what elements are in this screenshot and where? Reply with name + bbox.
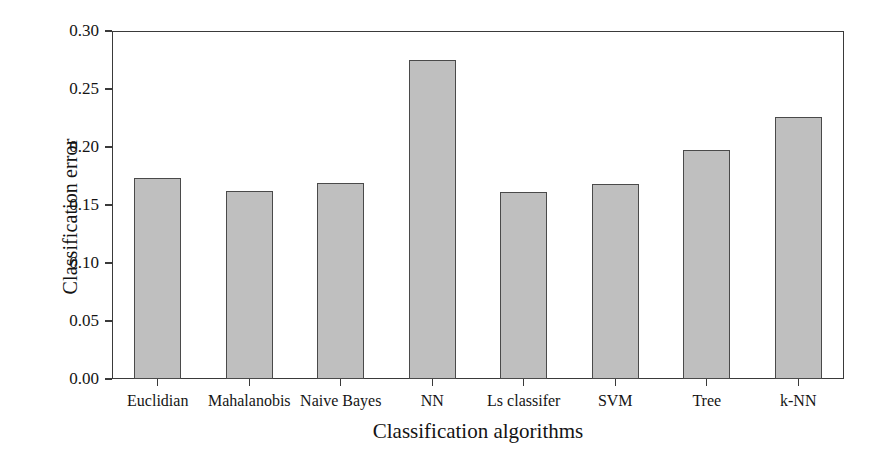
x-axis-title: Classification algorithms bbox=[112, 419, 844, 444]
x-tick-label: Tree bbox=[692, 391, 721, 411]
y-tick-mark bbox=[105, 320, 112, 321]
y-tick-label: 0.05 bbox=[69, 309, 99, 333]
x-axis-tick bbox=[798, 379, 799, 386]
x-axis-tick bbox=[157, 379, 158, 386]
y-tick-label: 0.15 bbox=[69, 193, 99, 217]
bar bbox=[409, 60, 456, 379]
plot-area: 0.000.050.100.150.200.250.30EuclidianMah… bbox=[112, 31, 844, 379]
y-tick-label: 0.10 bbox=[69, 251, 99, 275]
x-tick-label: Euclidian bbox=[127, 391, 188, 411]
x-tick-label: Mahalanobis bbox=[208, 391, 291, 411]
x-axis-tick bbox=[615, 379, 616, 386]
x-tick-label: SVM bbox=[598, 391, 633, 411]
bar bbox=[775, 117, 822, 379]
y-tick-mark bbox=[105, 262, 112, 263]
y-tick-label: 0.30 bbox=[69, 19, 99, 43]
bar bbox=[317, 183, 364, 379]
y-tick-label: 0.20 bbox=[69, 135, 99, 159]
x-tick-label: NN bbox=[421, 391, 444, 411]
x-axis-tick bbox=[432, 379, 433, 386]
y-tick-mark bbox=[105, 146, 112, 147]
y-tick-mark bbox=[105, 378, 112, 379]
bar bbox=[226, 191, 273, 379]
bar bbox=[134, 178, 181, 379]
y-tick-label: 0.25 bbox=[69, 77, 99, 101]
bar bbox=[592, 184, 639, 379]
x-tick-label: Ls classifer bbox=[487, 391, 560, 411]
y-tick-mark bbox=[105, 88, 112, 89]
x-tick-label: Naive Bayes bbox=[300, 391, 381, 411]
y-tick-label: 0.00 bbox=[69, 367, 99, 391]
bar bbox=[683, 150, 730, 379]
x-tick-label: k-NN bbox=[780, 391, 816, 411]
bar bbox=[500, 192, 547, 379]
x-axis-tick bbox=[523, 379, 524, 386]
x-axis-tick bbox=[706, 379, 707, 386]
x-axis-tick bbox=[249, 379, 250, 386]
x-axis-tick bbox=[340, 379, 341, 386]
y-tick-mark bbox=[105, 204, 112, 205]
y-tick-mark bbox=[105, 30, 112, 31]
bar-chart-figure: Classification error 0.000.050.100.150.2… bbox=[0, 0, 877, 464]
